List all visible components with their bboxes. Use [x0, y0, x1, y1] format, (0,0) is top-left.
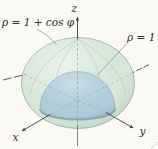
y-axis-label: y	[139, 125, 147, 137]
figure-spherical-coordinates: ρ = 1 + cos φ ρ = 1 z x y	[0, 0, 158, 149]
x-axis-label: x	[13, 131, 19, 143]
neg-x-axis-stub	[133, 65, 149, 73]
outer-surface-label: ρ = 1 + cos φ	[1, 16, 75, 28]
z-axis-label: z	[71, 2, 78, 14]
corner-artifact	[151, 142, 158, 149]
y-axis-arrowhead	[130, 125, 134, 128]
x-axis	[25, 115, 51, 130]
inner-surface-label: ρ = 1	[126, 31, 155, 43]
figure-canvas: ρ = 1 + cos φ ρ = 1 z x y	[0, 0, 158, 149]
z-axis-arrowhead	[76, 17, 79, 21]
